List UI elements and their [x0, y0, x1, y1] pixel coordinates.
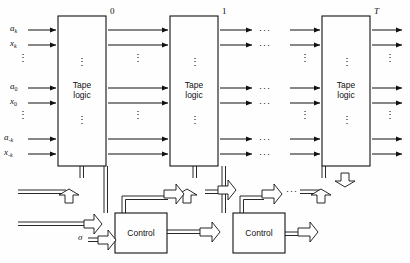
control0-up-out-line — [122, 196, 168, 213]
input-label-x-neg-k: x-k — [4, 147, 13, 158]
stage-number-T: T — [374, 6, 379, 16]
control0-up-out-arrowhead — [164, 184, 184, 204]
hdots-row-4: ··· — [259, 98, 271, 108]
diagram-svg — [0, 0, 410, 263]
control1-in-arrowhead — [218, 180, 236, 200]
tape-logic-T-vdots-upper: ⋮ — [342, 60, 352, 64]
stageT-ctrl-up-arrowhead — [311, 189, 331, 203]
input-label-x-k: xk — [10, 38, 17, 49]
stage-number-0: 0 — [110, 6, 115, 16]
tape-logic-T-vdots-lower: ⋮ — [342, 118, 352, 122]
tape-logic-label-1: Tapelogic — [170, 80, 218, 100]
hdots-row-2: ··· — [259, 40, 271, 50]
input-arrows-group — [28, 30, 56, 154]
stage0-ctrl-up-arrowhead — [59, 189, 79, 203]
interconnect-arrows-0-1 — [108, 30, 168, 154]
tape-logic-label-0: Tapelogic — [58, 80, 106, 100]
output-arrows-group — [372, 30, 402, 154]
hdots-row-3: ··· — [259, 83, 271, 93]
control1-out-arrowhead — [298, 222, 318, 242]
sigma-label: σ — [78, 232, 82, 242]
tape-logic-0-vdots-upper: ⋮ — [77, 60, 87, 64]
interconnect-vdots-0-1-lower: ⋮ — [133, 113, 143, 117]
hdots-row-5: ··· — [259, 134, 271, 144]
input-vdots-upper: ⋮ — [18, 56, 28, 60]
hollow-arrowheads — [59, 173, 355, 250]
interconnect-arrows-1-out — [220, 30, 252, 154]
tape-logic-label-T: Tapelogic — [322, 80, 370, 100]
control1-up-out-arrowhead — [262, 184, 282, 204]
input-label-x-0: x0 — [10, 96, 17, 107]
control-label-1: Control — [233, 228, 285, 238]
tape-logic-1-vdots-lower: ⋮ — [190, 118, 200, 122]
hdots-row-1: ··· — [259, 25, 271, 35]
tape-logic-1-vdots-upper: ⋮ — [190, 60, 200, 64]
control0-sigma-arrowhead — [98, 230, 116, 250]
control-chain-hdots: ··· — [286, 186, 298, 196]
input-label-a-0: a0 — [10, 81, 18, 92]
input-vdots-lower: ⋮ — [18, 113, 28, 117]
interconnect-vdots-1-T-upper: ⋮ — [300, 56, 310, 60]
tape-logic-0-vdots-lower: ⋮ — [77, 118, 87, 122]
interconnect-vdots-0-1-upper: ⋮ — [133, 56, 143, 60]
input-label-a-k: ak — [10, 23, 17, 34]
output-vdots-lower: ⋮ — [385, 113, 395, 117]
figure-canvas: ak xk a0 x0 a-k x-k ⋮ ⋮ 0 1 T Tapelogic … — [0, 0, 410, 263]
interconnect-arrows-in-T — [290, 30, 320, 154]
control1-up-out-line2 — [244, 200, 265, 214]
control0-in-arrowhead-top — [84, 214, 102, 234]
input-label-a-neg-k: a-k — [4, 132, 13, 143]
stageT-down-output-arrowhead — [335, 173, 355, 187]
interconnect-vdots-1-T-lower: ⋮ — [300, 113, 310, 117]
stage-number-1: 1 — [222, 6, 227, 16]
output-vdots-upper: ⋮ — [385, 56, 395, 60]
control0-up-out-line2 — [126, 200, 169, 214]
control0-to-control1-arrowhead — [200, 222, 220, 242]
hdots-row-6: ··· — [259, 149, 271, 159]
control-label-0: Control — [115, 228, 167, 238]
